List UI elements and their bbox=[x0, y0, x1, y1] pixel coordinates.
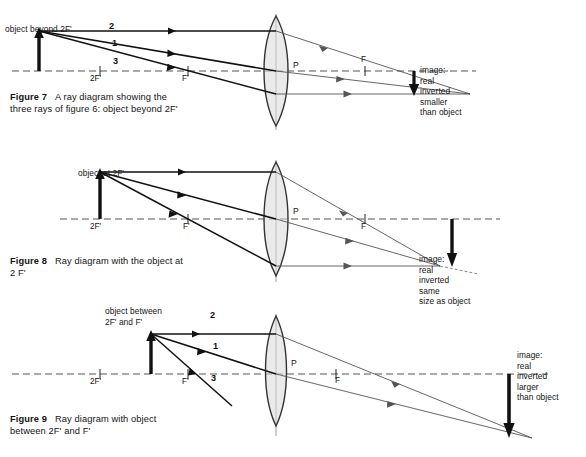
figure-7-diagram bbox=[0, 0, 586, 148]
figure-8: object at 2F' 2 1 3 2F' F' F P image: re… bbox=[0, 148, 586, 296]
image-arrow bbox=[503, 374, 514, 438]
lens-centre-label-fig7: P bbox=[293, 60, 299, 70]
figure-7-caption-label: Figure 7 bbox=[10, 92, 47, 102]
figure-9-caption-label: Figure 9 bbox=[10, 414, 47, 424]
axis-label-F-prime-fig7: F' bbox=[182, 74, 189, 83]
axis-label-F-prime-fig9: F' bbox=[182, 377, 189, 386]
figure-8-caption: Figure 8Ray diagram with the object at 2… bbox=[10, 256, 260, 279]
object-label-fig7: object beyond 2F' bbox=[5, 24, 72, 35]
ray-1 bbox=[39, 31, 470, 94]
figure-9-caption: Figure 9Ray diagram with object between … bbox=[10, 414, 260, 437]
ray-3 bbox=[151, 334, 232, 406]
figure-7-caption: Figure 7A ray diagram showing the three … bbox=[10, 92, 260, 115]
object-label-fig9: object between 2F' and F' bbox=[105, 306, 162, 327]
object-label-fig8: object at 2F' bbox=[78, 168, 124, 179]
axis-label-2F-prime-fig9: 2F' bbox=[90, 377, 101, 386]
axis-label-2F-prime-fig7: 2F' bbox=[90, 74, 101, 83]
axis-label-F-fig9: F bbox=[335, 376, 340, 385]
ray-2 bbox=[39, 27, 470, 94]
figure-9: object between 2F' and F' 2F' F' F P ima… bbox=[0, 296, 586, 457]
ray-number-3-fig7: 3 bbox=[113, 56, 118, 66]
axis-label-2F-prime-fig8: 2F' bbox=[90, 222, 101, 231]
image-annotation-fig7: image: real inverted smaller than object bbox=[420, 65, 462, 118]
lens-centre-label-fig8: P bbox=[293, 206, 299, 216]
axis-label-F-prime-fig8: F' bbox=[183, 222, 190, 231]
image-annotation-fig9: image: real inverted larger than object bbox=[517, 350, 559, 403]
ray-number-2-fig7: 2 bbox=[109, 21, 114, 31]
axis-label-F-fig7: F bbox=[361, 55, 366, 64]
figure-7: object beyond 2F' 2 1 3 2F' F' F P image… bbox=[0, 0, 586, 148]
lens-centre-label-fig9: P bbox=[291, 358, 297, 368]
axis-label-F-fig8: F bbox=[361, 222, 366, 231]
ray-number-1-fig7: 1 bbox=[112, 38, 117, 48]
ray-3 bbox=[39, 31, 470, 97]
figure-8-caption-label: Figure 8 bbox=[10, 256, 47, 266]
